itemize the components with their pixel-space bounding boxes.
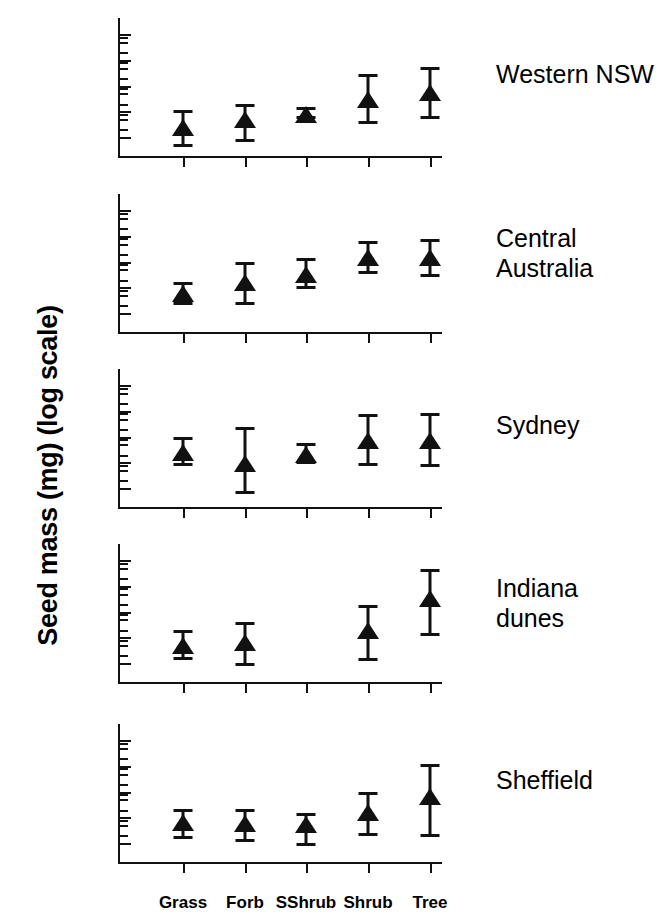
error-cap-upper bbox=[297, 258, 316, 261]
error-cap-upper bbox=[421, 569, 440, 572]
data-point-marker bbox=[357, 432, 379, 449]
data-point-marker bbox=[172, 637, 194, 654]
panel-sheffield: 10001001010.1 bbox=[62, 716, 442, 881]
error-cap-lower bbox=[421, 464, 440, 467]
error-cap-upper bbox=[236, 427, 255, 430]
error-cap-upper bbox=[359, 241, 378, 244]
error-cap-upper bbox=[421, 239, 440, 242]
error-cap-lower bbox=[236, 839, 255, 842]
data-point-marker bbox=[234, 815, 256, 832]
panel-central-australia: 10001001010.1 bbox=[62, 186, 442, 351]
data-point-marker bbox=[357, 91, 379, 108]
error-cap-upper bbox=[421, 764, 440, 767]
error-cap-lower bbox=[297, 843, 316, 846]
error-cap-lower bbox=[174, 657, 193, 660]
data-point-marker bbox=[357, 622, 379, 639]
error-cap-lower bbox=[359, 463, 378, 466]
error-cap-upper bbox=[174, 809, 193, 812]
error-cap-upper bbox=[421, 67, 440, 70]
error-cap-lower bbox=[174, 836, 193, 839]
data-point-marker bbox=[295, 816, 317, 833]
data-point-marker bbox=[357, 804, 379, 821]
data-point-marker bbox=[172, 444, 194, 461]
data-point-marker bbox=[295, 106, 317, 123]
data-point-marker bbox=[295, 266, 317, 283]
error-cap-lower bbox=[421, 116, 440, 119]
data-point-marker bbox=[419, 249, 441, 266]
x-label-forb: Forb bbox=[226, 893, 264, 913]
error-cap-lower bbox=[359, 658, 378, 661]
panel-indiana-dunes: 10001001010.1 bbox=[62, 536, 442, 701]
error-cap-lower bbox=[359, 271, 378, 274]
error-cap-upper bbox=[421, 413, 440, 416]
data-series bbox=[62, 716, 442, 881]
error-cap-upper bbox=[359, 74, 378, 77]
data-point-marker bbox=[419, 788, 441, 805]
error-cap-upper bbox=[174, 110, 193, 113]
figure-seed-mass-by-growth-form: Seed mass (mg) (log scale) 10001001010.1… bbox=[0, 0, 666, 921]
x-label-shrub: Shrub bbox=[343, 893, 392, 913]
panel-western-nsw: 10001001010.1 bbox=[62, 10, 442, 175]
error-cap-lower bbox=[421, 633, 440, 636]
panel-label-western-nsw: Western NSW bbox=[496, 60, 654, 90]
panel-label-indiana-dunes: Indiana dunes bbox=[496, 574, 578, 633]
data-point-marker bbox=[419, 84, 441, 101]
error-cap-lower bbox=[359, 833, 378, 836]
y-axis-title: Seed mass (mg) (log scale) bbox=[33, 196, 64, 756]
data-point-marker bbox=[234, 455, 256, 472]
error-cap-lower bbox=[236, 491, 255, 494]
panel-label-central-australia: Central Australia bbox=[496, 224, 593, 283]
data-series bbox=[62, 186, 442, 351]
error-cap-lower bbox=[297, 286, 316, 289]
error-cap-upper bbox=[236, 809, 255, 812]
error-cap-upper bbox=[359, 605, 378, 608]
data-point-marker bbox=[234, 634, 256, 651]
error-cap-upper bbox=[236, 622, 255, 625]
data-point-marker bbox=[234, 274, 256, 291]
panel-label-sheffield: Sheffield bbox=[496, 766, 593, 796]
data-series bbox=[62, 361, 442, 526]
data-point-marker bbox=[172, 814, 194, 831]
error-cap-lower bbox=[359, 121, 378, 124]
error-cap-lower bbox=[236, 663, 255, 666]
error-cap-upper bbox=[236, 104, 255, 107]
error-cap-upper bbox=[359, 792, 378, 795]
data-point-marker bbox=[357, 249, 379, 266]
data-point-marker bbox=[172, 119, 194, 136]
error-cap-lower bbox=[421, 834, 440, 837]
data-series bbox=[62, 536, 442, 701]
error-cap-upper bbox=[236, 262, 255, 265]
error-cap-lower bbox=[421, 274, 440, 277]
data-point-marker bbox=[295, 446, 317, 463]
data-point-marker bbox=[234, 111, 256, 128]
x-label-sshrub: SShrub bbox=[276, 893, 336, 913]
panel-label-sydney: Sydney bbox=[496, 411, 579, 441]
error-cap-upper bbox=[359, 414, 378, 417]
error-cap-lower bbox=[236, 302, 255, 305]
panel-sydney: 10001001010.1 bbox=[62, 361, 442, 526]
data-point-marker bbox=[172, 285, 194, 302]
data-series bbox=[62, 10, 442, 175]
x-axis-category-labels: GrassForbSShrubShrubTree bbox=[62, 893, 442, 919]
data-point-marker bbox=[419, 590, 441, 607]
error-cap-upper bbox=[174, 437, 193, 440]
data-point-marker bbox=[419, 432, 441, 449]
error-cap-lower bbox=[174, 302, 193, 305]
x-label-grass: Grass bbox=[159, 893, 207, 913]
error-cap-upper bbox=[174, 630, 193, 633]
x-label-tree: Tree bbox=[413, 893, 448, 913]
error-cap-lower bbox=[174, 463, 193, 466]
error-cap-lower bbox=[236, 139, 255, 142]
error-cap-lower bbox=[174, 144, 193, 147]
